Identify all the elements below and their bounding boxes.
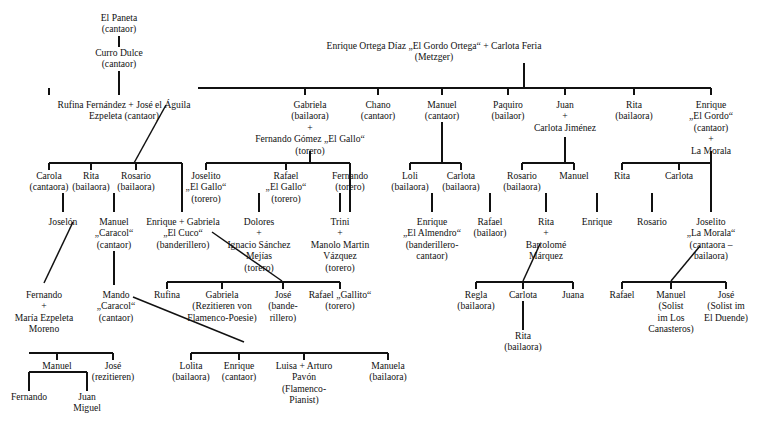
person-node-jose-rez: José(rezitieren) — [92, 360, 135, 383]
person-line: + — [311, 227, 369, 238]
person-line: (Flamenco- — [276, 383, 333, 394]
person-line: (cantaor) — [689, 122, 733, 133]
person-line: Rita — [615, 99, 652, 110]
person-line: (bailaora) — [504, 341, 541, 352]
person-line: El Duende) — [704, 312, 748, 323]
person-line: (bailaora) — [72, 181, 109, 192]
person-line: (Solist — [648, 300, 693, 311]
person-line: Pianist) — [276, 394, 333, 405]
person-line: (bailaora) — [369, 371, 406, 382]
person-line: Juan — [73, 391, 101, 402]
person-line: Joselito — [687, 216, 736, 227]
person-node-regla: Regla(bailaora) — [457, 289, 494, 312]
person-node-fernando-3: Fernando — [11, 391, 47, 402]
person-line: (torero) — [227, 262, 290, 273]
person-node-rufina-2: Rufina — [154, 289, 180, 300]
person-node-carola: Carola(cantaora) — [30, 170, 69, 193]
person-line: José — [704, 289, 748, 300]
person-node-carlota-b1: Carlota(bailaora) — [442, 170, 479, 193]
person-line: Enrique + Gabriela — [146, 216, 220, 227]
person-line: (bailaora) — [391, 181, 428, 192]
person-line: La Morala — [689, 145, 733, 156]
person-line: Canasteros) — [648, 323, 693, 334]
person-line: „La Morala“ — [687, 227, 736, 238]
person-line: (cantaor) — [97, 312, 135, 323]
person-line: Luisa + Arturo — [276, 360, 333, 371]
person-line: (bailaora) — [172, 371, 209, 382]
person-node-manuel-2: Manuel — [559, 170, 588, 181]
person-line: Enrique — [403, 216, 461, 227]
person-node-el-paneta: El Paneta(cantaor) — [101, 12, 138, 35]
person-line: Carlota Jiménez — [534, 122, 596, 133]
person-line: „El Cuco“ — [146, 227, 220, 238]
person-node-lolita: Lolita(bailaora) — [172, 360, 209, 383]
person-line: „El Gordo“ — [689, 110, 733, 121]
person-line: Mando — [97, 289, 135, 300]
person-line: Fernando — [332, 170, 368, 181]
person-line: Joselón — [49, 216, 78, 227]
person-line: + — [689, 133, 733, 144]
person-line: (bailaora) — [442, 181, 479, 192]
person-node-enrique-almendro: Enrique„El Almendro“(banderillero-cantao… — [403, 216, 461, 262]
person-node-juan-miguel: JuanMiguel — [73, 391, 101, 414]
person-line: Bartolomé — [526, 239, 567, 250]
person-line: + — [255, 122, 365, 133]
person-node-jose-duende: José(Solist imEl Duende) — [704, 289, 748, 323]
person-line: (torero) — [332, 181, 368, 192]
person-line: rillero) — [268, 312, 297, 323]
person-node-manuela: Manuela(bailaora) — [369, 360, 406, 383]
person-line: bailaora) — [687, 250, 736, 261]
person-line: Gabriela — [187, 289, 256, 300]
person-line: El Paneta — [101, 12, 138, 23]
person-line: (Rezitieren von — [187, 300, 256, 311]
person-line: „Caracol“ — [97, 300, 135, 311]
person-line: Lolita — [172, 360, 209, 371]
person-line: (rezitieren) — [92, 371, 135, 382]
person-line: (cantaor) — [425, 110, 460, 121]
person-line: Manuel — [648, 289, 693, 300]
person-line: „El Almendro“ — [403, 227, 461, 238]
person-node-gabriela-gallo: Gabriela(bailaora)+Fernando Gómez „El Ga… — [255, 99, 365, 156]
person-node-joselito-morala: Joselito„La Morala“(cantaora –bailaora) — [687, 216, 736, 262]
person-node-rufina-jose: Rufina Fernández + José el ÁguilaEzpelet… — [57, 99, 190, 122]
person-line: Miguel — [73, 402, 101, 413]
person-line: Trini — [311, 216, 369, 227]
person-line: Rufina — [154, 289, 180, 300]
person-line: Dolores — [227, 216, 290, 227]
person-node-loli: Loli(bailaora) — [391, 170, 428, 193]
person-line: (bailaora) — [117, 181, 154, 192]
person-line: Márquez — [526, 250, 567, 261]
person-line: Ezpeleta (cantaor) — [57, 110, 190, 121]
person-line: José — [268, 289, 297, 300]
person-line: Pavón — [276, 371, 333, 382]
person-line: (cantaor) — [101, 23, 138, 34]
person-line: (cantaor) — [95, 58, 143, 69]
person-line: Enrique Ortega Díaz „El Gordo Ortega“ + … — [327, 40, 542, 51]
person-node-dolores-ignacio: Dolores+Ignacio SánchezMejías(torero) — [227, 216, 290, 273]
person-line: (torero) — [309, 300, 372, 311]
person-line: (banderillero- — [403, 239, 461, 250]
person-line: „El Gallo“ — [186, 181, 227, 192]
person-node-luisa-arturo: Luisa + ArturoPavón(Flamenco-Pianist) — [276, 360, 333, 406]
person-node-gabriela-rez: Gabriela(Rezitieren vonFlamenco-Poesie) — [187, 289, 256, 323]
person-line: Manuel — [559, 170, 588, 181]
person-line: Loli — [391, 170, 428, 181]
joselon-to-fernando — [44, 222, 73, 283]
person-node-rosario-b1: Rosario(bailaora) — [117, 170, 154, 193]
person-line: Enrique — [582, 216, 612, 227]
person-node-enrique-ortega: Enrique Ortega Díaz „El Gordo Ortega“ + … — [327, 40, 542, 63]
person-node-rita-bartolome: Rita+BartoloméMárquez — [526, 216, 567, 262]
person-node-joselito-gallo: Joselito„El Gallo“(torero) — [186, 170, 227, 204]
person-node-rosario-3: Rosario — [637, 216, 667, 227]
person-node-enrique-4: Enrique — [582, 216, 612, 227]
person-node-carlota-4: Carlota — [509, 289, 537, 300]
person-node-rafael-bailaor: Rafael(bailaor) — [473, 216, 506, 239]
person-line: Flamenco-Poesie) — [187, 312, 256, 323]
person-node-fernando-maria: Fernando+María EzpeletaMoreno — [15, 289, 73, 335]
person-node-juana: Juana — [562, 289, 584, 300]
person-node-manuel-solist: Manuel(Solistim LosCanasteros) — [648, 289, 693, 335]
person-line: José — [92, 360, 135, 371]
person-line: (cantaora) — [30, 181, 69, 192]
person-line: Carlota — [665, 170, 693, 181]
person-node-mando-caracol: Mando„Caracol“(cantaor) — [97, 289, 135, 323]
